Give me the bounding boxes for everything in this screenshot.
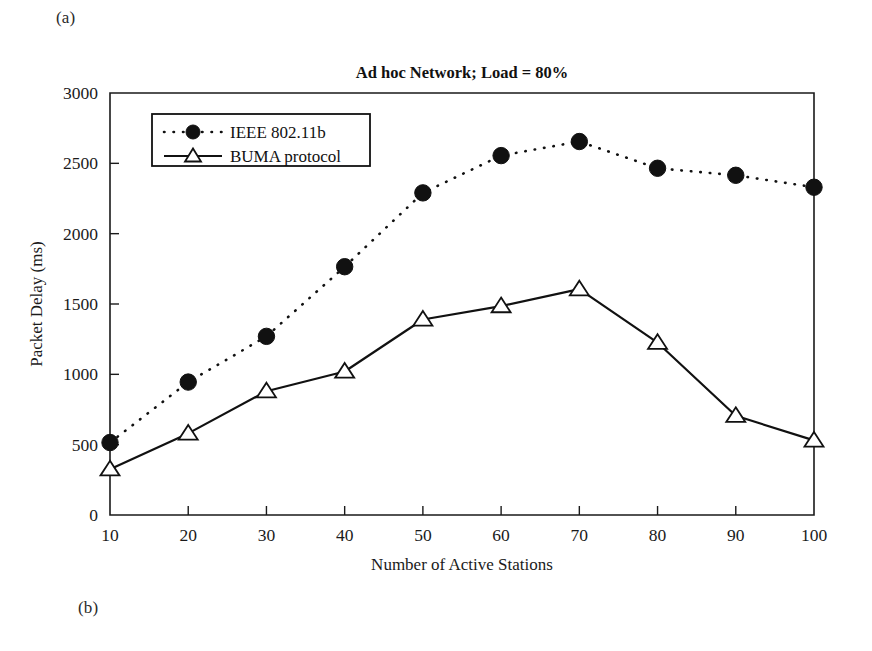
data-point-marker [648, 334, 667, 349]
data-point-marker [335, 363, 354, 378]
x-tick-label: 10 [101, 525, 119, 545]
x-tick-label: 70 [571, 525, 589, 545]
data-point-marker [102, 434, 118, 450]
data-point-marker [570, 281, 589, 296]
chart-title: Ad hoc Network; Load = 80% [356, 63, 568, 82]
figure-root: (a) (b) Ad hoc Network; Load = 80% 05001… [0, 0, 872, 651]
x-tick-label: 100 [801, 525, 828, 545]
x-tick-label: 40 [336, 525, 354, 545]
series-line-ieee-802-11b [110, 142, 814, 443]
x-axis-ticks: 102030405060708090100 [101, 506, 827, 545]
y-tick-label: 1000 [63, 364, 98, 384]
series-layer [101, 133, 824, 475]
data-point-marker [101, 461, 120, 476]
data-point-marker [493, 147, 509, 163]
x-tick-label: 30 [258, 525, 276, 545]
y-tick-label: 2000 [63, 224, 98, 244]
y-axis-label: Packet Delay (ms) [27, 241, 46, 367]
data-point-marker [336, 259, 352, 275]
data-point-marker [571, 133, 587, 149]
data-point-marker [179, 425, 198, 440]
y-tick-label: 3000 [63, 83, 98, 103]
legend-sample-marker [186, 125, 200, 139]
x-tick-label: 80 [649, 525, 667, 545]
packet-delay-chart: Ad hoc Network; Load = 80% 0500100015002… [0, 0, 872, 651]
data-point-marker [806, 179, 822, 195]
y-tick-label: 500 [72, 435, 99, 455]
data-point-marker [649, 160, 665, 176]
x-tick-label: 90 [727, 525, 745, 545]
x-tick-label: 20 [179, 525, 197, 545]
data-point-marker [180, 374, 196, 390]
y-tick-label: 0 [89, 505, 98, 525]
x-tick-label: 50 [414, 525, 432, 545]
x-axis-label: Number of Active Stations [371, 555, 553, 574]
series-line-buma-protocol [110, 289, 814, 469]
x-tick-label: 60 [492, 525, 510, 545]
chart-legend: IEEE 802.11bBUMA protocol [152, 114, 370, 166]
y-tick-label: 2500 [63, 153, 98, 173]
legend-label: BUMA protocol [230, 147, 341, 166]
data-point-marker [728, 167, 744, 183]
y-tick-label: 1500 [63, 294, 98, 314]
legend-label: IEEE 802.11b [230, 123, 326, 142]
data-point-marker [258, 328, 274, 344]
data-point-marker [415, 185, 431, 201]
